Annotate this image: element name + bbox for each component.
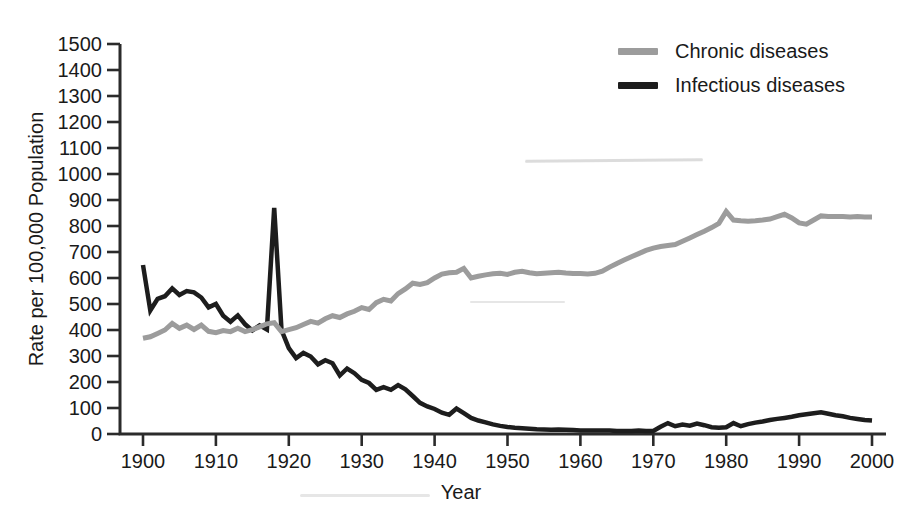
y-tick-label-100: 100 xyxy=(69,397,102,419)
y-tick-label-600: 600 xyxy=(69,267,102,289)
y-tick-label-1000: 1000 xyxy=(58,163,103,185)
x-tick-label-1900: 1900 xyxy=(121,450,166,472)
x-tick-label-1910: 1910 xyxy=(194,450,239,472)
y-tick-label-200: 200 xyxy=(69,371,102,393)
x-tick-label-1930: 1930 xyxy=(339,450,384,472)
legend-item-infectious-diseases: Infectious diseases xyxy=(618,74,845,97)
legend-item-chronic-diseases: Chronic diseases xyxy=(618,40,845,63)
x-axis-title: Year xyxy=(361,481,561,504)
y-tick-label-300: 300 xyxy=(69,345,102,367)
legend-label-chronic-diseases: Chronic diseases xyxy=(675,40,828,63)
y-tick-label-1100: 1100 xyxy=(59,137,102,159)
y-tick-label-900: 900 xyxy=(69,189,102,211)
infectious-vs-chronic-mortality-chart: 0100200300400500600700800900100011001200… xyxy=(0,0,915,527)
y-tick-label-700: 700 xyxy=(69,241,102,263)
y-axis-title: Rate per 100,000 Population xyxy=(23,89,49,389)
x-tick-label-1920: 1920 xyxy=(267,450,312,472)
x-tick-label-1950: 1950 xyxy=(485,450,530,472)
x-tick-label-2000: 2000 xyxy=(850,450,895,472)
y-tick-label-800: 800 xyxy=(69,215,102,237)
y-tick-label-1200: 1200 xyxy=(58,111,103,133)
y-tick-label-500: 500 xyxy=(69,293,102,315)
y-tick-label-1500: 1500 xyxy=(58,33,103,55)
x-tick-label-1990: 1990 xyxy=(777,450,822,472)
x-tick-label-1970: 1970 xyxy=(631,450,676,472)
x-tick-label-1960: 1960 xyxy=(558,450,603,472)
chronic-diseases-line xyxy=(143,211,872,338)
x-tick-label-1980: 1980 xyxy=(704,450,749,472)
y-tick-label-400: 400 xyxy=(69,319,102,341)
x-tick-label-1940: 1940 xyxy=(412,450,457,472)
legend: Chronic diseases Infectious diseases xyxy=(618,40,845,108)
y-tick-label-1300: 1300 xyxy=(58,85,103,107)
y-tick-label-0: 0 xyxy=(91,423,102,445)
y-tick-label-1400: 1400 xyxy=(58,59,103,81)
legend-swatch-chronic-diseases xyxy=(618,48,658,55)
infectious-diseases-line xyxy=(143,208,872,431)
legend-label-infectious-diseases: Infectious diseases xyxy=(675,74,845,97)
legend-swatch-infectious-diseases xyxy=(618,82,658,89)
